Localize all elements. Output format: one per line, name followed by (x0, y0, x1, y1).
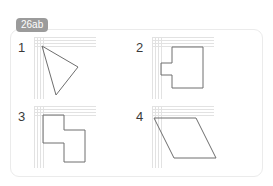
grid-box-3 (34, 106, 96, 168)
exercise-grid: 1 2 3 (11, 30, 262, 176)
shape-canvas-2 (152, 37, 214, 99)
shape-canvas-1 (34, 37, 96, 99)
exercise-item-1: 1 (15, 35, 131, 105)
rectangle-with-left-tab-shape (161, 47, 203, 88)
exercise-number-3: 3 (18, 110, 25, 123)
shape-canvas-3 (34, 106, 96, 168)
worksheet-card: 1 2 3 (10, 29, 263, 177)
shape-canvas-4 (152, 106, 214, 168)
exercise-item-3: 3 (15, 104, 131, 174)
grid-box-4 (152, 106, 214, 168)
exercise-number-4: 4 (136, 110, 143, 123)
worksheet-tab-label: 26ab (16, 18, 48, 32)
grid-box-1 (34, 37, 96, 99)
worksheet-page: 26ab 1 2 (0, 0, 273, 186)
exercise-number-1: 1 (18, 41, 25, 54)
z-shaped-hexagon-shape (43, 115, 85, 162)
grid-box-2 (152, 37, 214, 99)
exercise-item-4: 4 (133, 104, 249, 174)
triangle-shape (42, 46, 78, 95)
exercise-item-2: 2 (133, 35, 249, 105)
exercise-number-2: 2 (136, 41, 143, 54)
parallelogram-shape (154, 118, 216, 158)
